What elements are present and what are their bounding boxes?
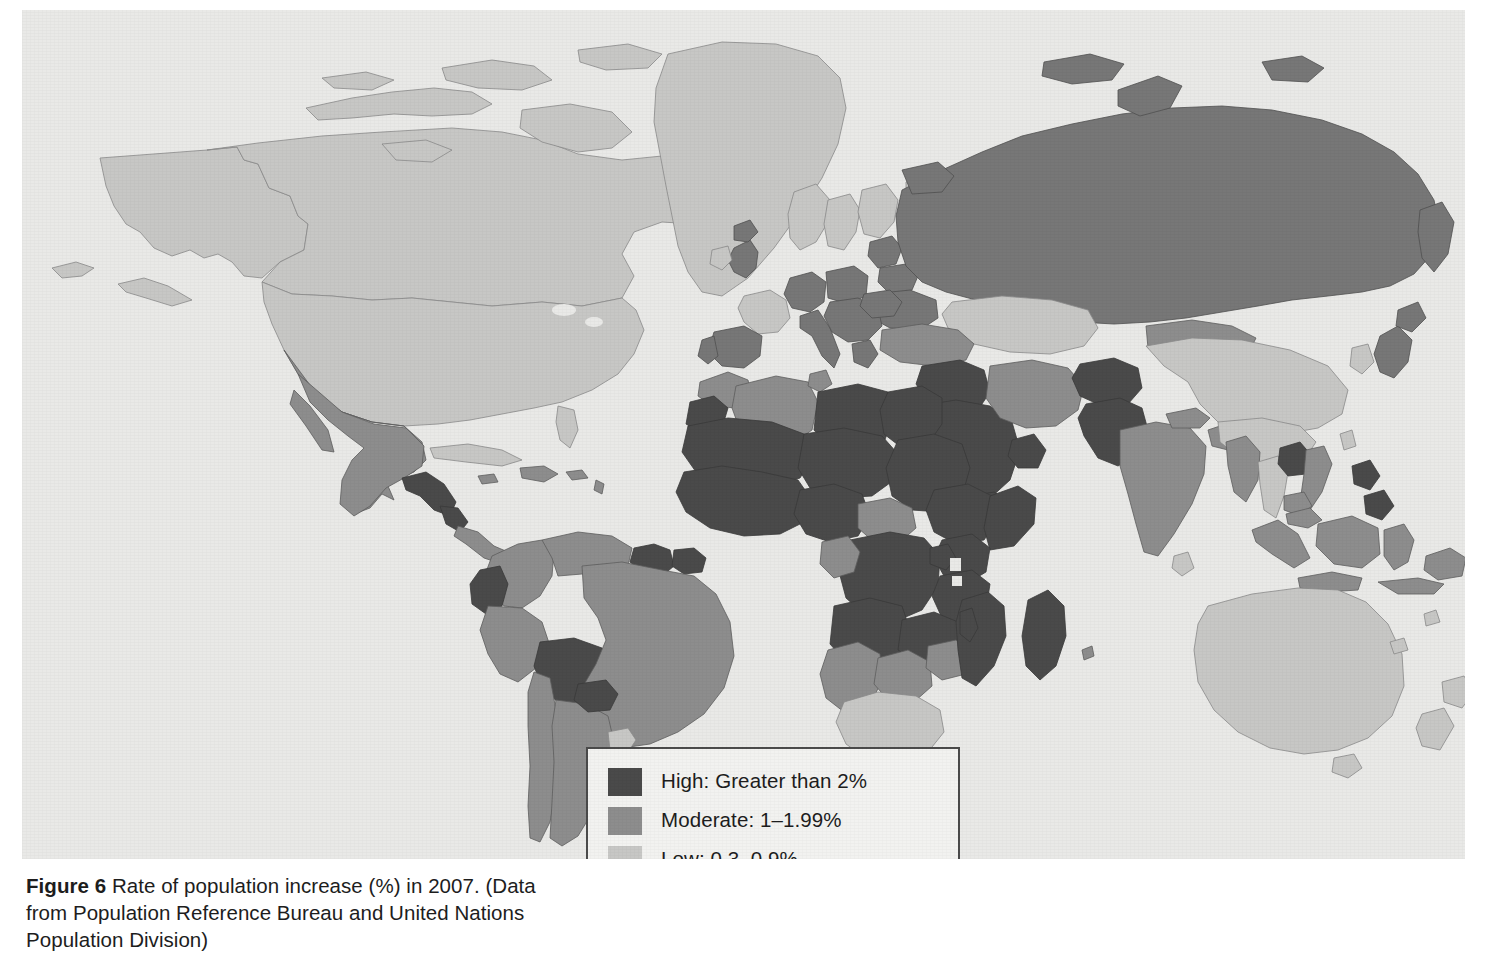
legend-swatch-moderate <box>608 807 642 835</box>
figure-root: .c-high { fill:#4a4a4a; stroke:#3a3a3a; … <box>0 0 1489 961</box>
legend-item-moderate: Moderate: 1–1.99% <box>588 801 958 840</box>
legend-item-high: High: Greater than 2% <box>588 762 958 801</box>
region-jamaica <box>478 474 498 484</box>
world-map-panel: .c-high { fill:#4a4a4a; stroke:#3a3a3a; … <box>22 10 1465 859</box>
map-legend: High: Greater than 2% Moderate: 1–1.99% … <box>586 747 960 859</box>
figure-caption-label: Figure 6 <box>26 874 106 897</box>
figure-caption: Figure 6 Rate of population increase (%)… <box>26 872 566 953</box>
legend-label-low: Low: 0.3–0.9% <box>661 849 798 859</box>
legend-swatch-low <box>608 846 642 860</box>
world-map-svg: .c-high { fill:#4a4a4a; stroke:#3a3a3a; … <box>22 10 1465 859</box>
legend-swatch-high <box>608 768 642 796</box>
legend-label-high: High: Greater than 2% <box>661 771 867 792</box>
legend-label-moderate: Moderate: 1–1.99% <box>661 810 842 831</box>
region-poland <box>826 266 868 304</box>
legend-item-low: Low: 0.3–0.9% <box>588 840 958 859</box>
